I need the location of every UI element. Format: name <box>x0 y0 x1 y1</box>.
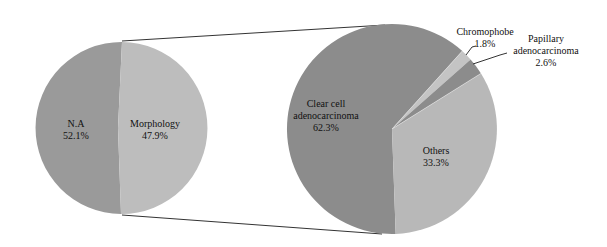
label-na: N.A 52.1% <box>63 118 89 142</box>
label-papillary: Papillary adenocarcinoma 2.6% <box>513 33 579 69</box>
label-clear-cell: Clear cell adenocarcinoma 62.3% <box>293 98 359 134</box>
left-pie <box>36 42 208 214</box>
label-others: Others 33.3% <box>423 145 450 169</box>
label-morphology: Morphology 47.9% <box>130 118 180 142</box>
leader-papillary <box>473 53 507 64</box>
label-chromophobe: Chromophobe 1.8% <box>456 26 513 50</box>
